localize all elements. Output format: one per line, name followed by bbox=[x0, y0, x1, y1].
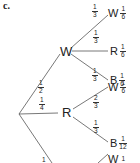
node-w: W bbox=[60, 45, 72, 58]
probability-tree-diagram: c. W R 12 14 1 13 13 13 23 13 W 16 R 16 … bbox=[0, 0, 140, 163]
prob-root-r: 14 bbox=[39, 97, 45, 112]
part-label: c. bbox=[3, 1, 10, 11]
prob-w-w: 13 bbox=[92, 4, 98, 19]
result-ww: 16 bbox=[120, 6, 126, 21]
prob-root-third: 1 bbox=[41, 157, 47, 163]
prob-w-r: 13 bbox=[93, 30, 99, 45]
prob-w-b: 13 bbox=[92, 68, 98, 83]
result-third-w: 1 bbox=[120, 156, 126, 163]
branch-r-w bbox=[73, 87, 108, 109]
branch-third-w bbox=[98, 154, 108, 163]
leaf-ww: W 16 bbox=[108, 6, 126, 21]
result-rb: 112 bbox=[119, 136, 126, 151]
prob-root-w: 12 bbox=[38, 80, 44, 95]
result-wr: 16 bbox=[120, 44, 126, 59]
node-r: R bbox=[62, 106, 71, 119]
prob-r-b: 13 bbox=[93, 120, 99, 135]
branch-r-b bbox=[73, 117, 108, 142]
leaf-rw: W 16 bbox=[108, 80, 126, 95]
prob-r-w: 23 bbox=[93, 95, 99, 110]
branch-w-w bbox=[71, 15, 108, 48]
leaf-third-w: W 1 bbox=[108, 153, 126, 163]
result-rw: 16 bbox=[120, 80, 126, 95]
branch-root-r bbox=[19, 113, 58, 114]
branch-w-b bbox=[71, 54, 108, 80]
leaf-wr: R 16 bbox=[110, 44, 126, 59]
leaf-rb: B 112 bbox=[110, 136, 127, 151]
branch-root-third bbox=[19, 114, 52, 163]
